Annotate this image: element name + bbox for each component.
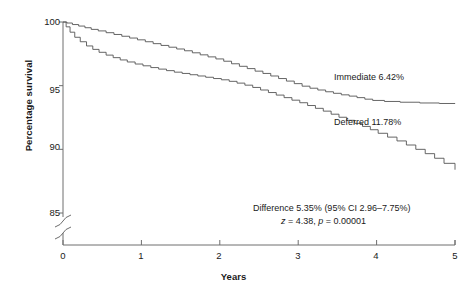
series-line-deferred bbox=[63, 22, 455, 170]
x-tick-label-4: 4 bbox=[364, 250, 388, 261]
x-axis-title: Years bbox=[0, 271, 467, 282]
series-line-immediate bbox=[63, 22, 455, 104]
x-tick-label-5: 5 bbox=[443, 250, 467, 261]
series-label-deferred: Deferred 11.78% bbox=[334, 117, 401, 127]
annotation-difference: Difference 5.35% (95% CI 2.96–7.75%) bbox=[253, 203, 410, 213]
series-label-immediate: Immediate 6.42% bbox=[334, 72, 404, 82]
annotation-z-value: = 4.38, bbox=[286, 216, 319, 226]
y-tick-label-90: 90 bbox=[30, 141, 60, 152]
y-tick-label-85: 85 bbox=[30, 207, 60, 218]
annotation-p-value: = 0.00001 bbox=[323, 216, 366, 226]
survival-chart: Percentage survival Years 100 95 90 85 0… bbox=[0, 0, 467, 295]
x-tick-label-2: 2 bbox=[207, 250, 231, 261]
x-tick-label-3: 3 bbox=[286, 250, 310, 261]
y-tick-label-100: 100 bbox=[30, 16, 60, 27]
x-tick-label-1: 1 bbox=[129, 250, 153, 261]
chart-series-lines bbox=[63, 22, 455, 170]
x-tick-label-0: 0 bbox=[51, 250, 75, 261]
annotation-z-p: z = 4.38, p = 0.00001 bbox=[281, 216, 366, 226]
y-tick-label-95: 95 bbox=[30, 84, 60, 95]
y-axis-title: Percentage survival bbox=[23, 26, 34, 186]
